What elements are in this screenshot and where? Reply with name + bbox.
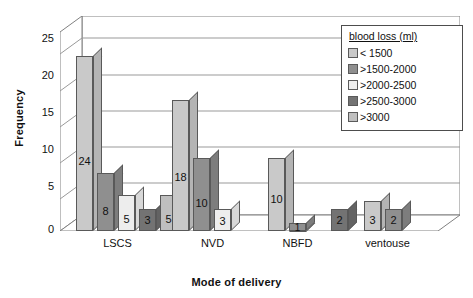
legend-label: >3000 (360, 112, 390, 123)
bar-value-label: 8 (97, 206, 114, 217)
y-tick-15: 15 (28, 107, 54, 118)
legend-item-gt3000[interactable]: >3000 (348, 109, 457, 125)
bar-value-label: 1 (289, 222, 306, 233)
bar-lscs-lt1500[interactable]: 24 (76, 56, 93, 231)
bar-side-face (306, 214, 315, 231)
y-axis-tick-labels: 25 20 15 10 5 0 (28, 0, 54, 298)
bar-value-label: 18 (172, 172, 189, 183)
bar-nbfd-lt1500[interactable]: 10 (268, 158, 285, 231)
bar-ventouse-1500-2000[interactable]: 2 (385, 209, 402, 231)
bar-nvd-1500-2000[interactable]: 10 (193, 158, 210, 231)
bar-side-face (402, 200, 411, 231)
bar-lscs-2500-3000[interactable]: 3 (139, 209, 156, 231)
legend-label: >2500-3000 (360, 96, 416, 107)
x-tick-ventouse: ventouse (330, 237, 445, 249)
bar-nbfd-2500-3000[interactable]: 2 (331, 209, 348, 231)
y-tick-0: 0 (28, 224, 54, 235)
legend-title: blood loss (ml) (349, 30, 457, 42)
legend-swatch-icon (348, 48, 358, 58)
bar-nbfd-1500-2000[interactable]: 1 (289, 223, 306, 231)
bar-side-face (348, 200, 357, 231)
bar-side-face (231, 200, 240, 231)
bar-value-label: 2 (385, 215, 402, 226)
bar-front-face (193, 158, 210, 231)
legend-item-2500-3000[interactable]: >2500-3000 (348, 93, 457, 109)
y-tick-10: 10 (28, 144, 54, 155)
x-axis-title: Mode of delivery (0, 276, 473, 288)
bar-front-face (76, 56, 93, 231)
bar-front-face (97, 173, 114, 231)
y-tick-5: 5 (28, 181, 54, 192)
legend-label: >2000-2500 (360, 80, 416, 91)
legend-item-lt1500[interactable]: < 1500 (348, 45, 457, 61)
bar-side-face (285, 149, 294, 231)
y-tick-20: 20 (28, 70, 54, 81)
legend-swatch-icon (348, 64, 358, 74)
bar-chart: Frequency 25 20 15 10 5 0 (0, 0, 473, 298)
legend-swatch-icon (348, 80, 358, 90)
bar-nvd-lt1500[interactable]: 18 (172, 100, 189, 231)
bar-value-label: 3 (139, 215, 156, 226)
x-axis-tick-labels: LSCS NVD NBFD ventouse (0, 237, 473, 253)
y-axis-title: Frequency (13, 68, 25, 168)
legend-item-2000-2500[interactable]: >2000-2500 (348, 77, 457, 93)
legend-swatch-icon (348, 112, 358, 122)
bar-value-label: 24 (76, 156, 93, 167)
legend-swatch-icon (348, 96, 358, 106)
legend-label: < 1500 (360, 48, 392, 59)
legend-item-1500-2000[interactable]: >1500-2000 (348, 61, 457, 77)
bar-lscs-2000-2500[interactable]: 5 (118, 195, 135, 231)
y-tick-25: 25 (28, 33, 54, 44)
bar-front-face (172, 100, 189, 231)
bar-ventouse-lt1500[interactable]: 3 (364, 201, 381, 231)
bar-value-label: 3 (364, 215, 381, 226)
bar-nvd-2000-2500[interactable]: 3 (214, 209, 231, 231)
legend: blood loss (ml) < 1500 >1500-2000 >2000-… (341, 25, 463, 131)
bar-value-label: 10 (193, 198, 210, 209)
bar-value-label: 5 (118, 214, 135, 225)
bar-value-label: 3 (214, 216, 231, 227)
legend-label: >1500-2000 (360, 64, 416, 75)
bar-value-label: 10 (268, 194, 285, 205)
bar-lscs-1500-2000[interactable]: 8 (97, 173, 114, 231)
bar-value-label: 2 (331, 215, 348, 226)
